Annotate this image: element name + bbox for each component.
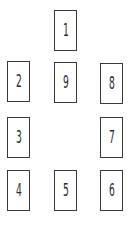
- card-position-1: 1: [54, 10, 77, 51]
- card-position-9: 9: [54, 62, 77, 103]
- card-number: 8: [109, 75, 115, 92]
- card-position-8: 8: [100, 63, 123, 104]
- card-number: 5: [63, 182, 69, 199]
- card-position-5: 5: [54, 170, 77, 211]
- card-position-7: 7: [100, 117, 123, 158]
- card-number: 9: [63, 74, 69, 91]
- card-number: 2: [16, 73, 22, 90]
- card-number: 7: [109, 129, 115, 146]
- card-number: 3: [16, 129, 22, 146]
- card-number: 1: [63, 22, 69, 39]
- card-number: 6: [109, 182, 115, 199]
- card-position-3: 3: [7, 117, 30, 158]
- card-position-6: 6: [100, 170, 123, 211]
- card-position-2: 2: [7, 61, 30, 102]
- card-number: 4: [16, 182, 22, 199]
- card-position-4: 4: [7, 170, 30, 211]
